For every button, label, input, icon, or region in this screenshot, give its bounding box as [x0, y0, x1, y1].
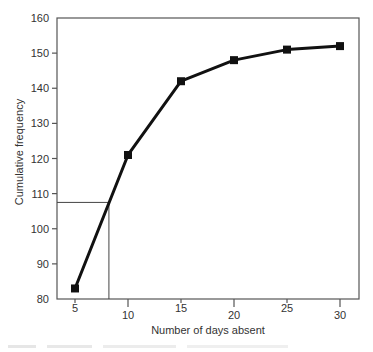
y-axis-title: Cumulative frequency [13, 98, 25, 205]
data-point-marker [230, 56, 238, 64]
data-point-marker [177, 77, 185, 85]
cumulative-frequency-chart: 8090100110120130140150160 51015202530 Nu… [0, 0, 373, 352]
y-tick-label: 120 [31, 153, 49, 165]
x-tick-label: 10 [122, 309, 134, 321]
y-tick-label: 100 [31, 223, 49, 235]
x-tick-label: 20 [228, 309, 240, 321]
y-tick-label: 160 [31, 12, 49, 24]
x-tick-label: 5 [72, 302, 78, 314]
y-tick-label: 150 [31, 47, 49, 59]
series-line [75, 46, 340, 288]
x-tick-label: 15 [175, 302, 187, 314]
y-tick-label: 80 [37, 293, 49, 305]
y-tick-label: 140 [31, 82, 49, 94]
x-tick-label: 25 [281, 302, 293, 314]
figure-caption-cropped [8, 345, 288, 348]
x-tick-label: 30 [334, 309, 346, 321]
data-series [71, 42, 344, 292]
data-point-marker [71, 284, 79, 292]
x-axis-ticks: 51015202530 [72, 299, 346, 321]
plot-frame [57, 18, 359, 299]
data-point-marker [336, 42, 344, 50]
y-tick-label: 130 [31, 117, 49, 129]
reference-lines [57, 202, 109, 299]
y-tick-label: 110 [31, 188, 49, 200]
data-point-marker [124, 151, 132, 159]
x-axis-title: Number of days absent [151, 324, 265, 336]
y-axis-ticks: 8090100110120130140150160 [31, 12, 57, 305]
data-point-marker [283, 46, 291, 54]
y-tick-label: 90 [37, 258, 49, 270]
